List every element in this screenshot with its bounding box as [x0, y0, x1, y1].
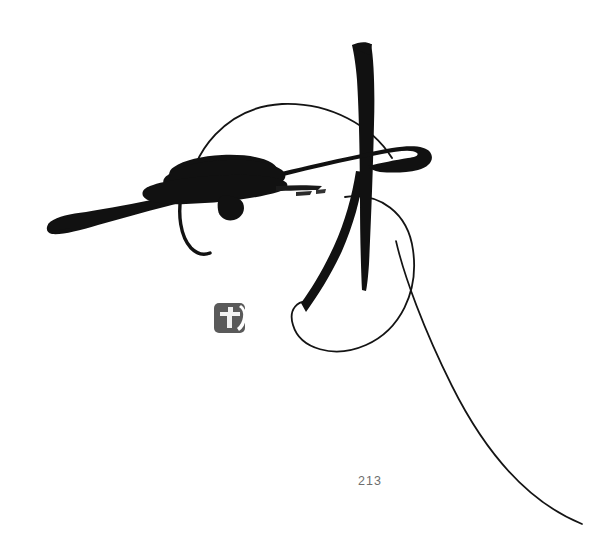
trailing-tail-stroke: [396, 241, 582, 524]
page-number: 213: [358, 474, 382, 488]
calligraphy-artwork: [0, 0, 605, 557]
dry-brush-fleck-a: [296, 191, 312, 196]
dry-brush-streak: [276, 185, 322, 191]
left-hook-curve-stroke: [180, 196, 210, 254]
artist-seal: [214, 303, 246, 333]
artwork-page: 213: [0, 0, 605, 557]
